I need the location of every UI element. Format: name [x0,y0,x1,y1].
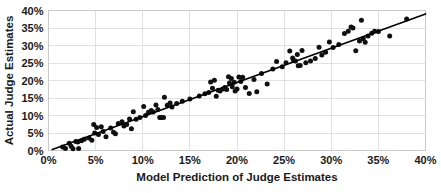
x-axis-title: Model Prediction of Judge Estimates [136,171,337,183]
data-point [129,126,134,131]
x-tick-label: 15% [179,154,201,166]
data-point [254,89,259,94]
data-point [327,40,332,45]
data-point [224,87,229,92]
data-point [387,34,392,39]
y-tick-label: 15% [21,92,43,104]
data-point [313,56,318,61]
data-point [141,104,146,109]
y-tick-label: 10% [21,110,43,122]
data-point [346,29,351,34]
chart-canvas: 0%5%10%15%20%25%30%35%40% 0%5%10%15%20%2… [0,0,441,193]
y-tick-label: 35% [21,22,43,34]
data-point [274,59,279,64]
data-point [89,138,94,143]
x-tick-label: 40% [414,154,436,166]
data-point [298,63,303,68]
data-point [287,49,292,54]
y-tick-label: 20% [21,75,43,87]
data-point [265,82,270,87]
x-tick-label: 20% [226,154,248,166]
data-point [359,18,364,23]
data-point [300,48,305,53]
data-point [103,134,108,139]
y-tick-label: 30% [21,40,43,52]
data-point [162,95,167,100]
x-tick-label: 35% [367,154,389,166]
y-axis-tick-labels: 0%5%10%15%20%25%30%35%40% [21,5,43,157]
data-point [350,26,355,31]
data-point [214,94,219,99]
data-point [63,146,68,151]
data-point [71,146,76,151]
trend-line [52,14,425,149]
data-point [212,78,217,83]
y-tick-label: 40% [21,5,43,17]
data-point [235,86,240,91]
x-tick-label: 25% [273,154,295,166]
data-point [131,109,136,114]
data-point [363,40,368,45]
y-tick-label: 25% [21,57,43,69]
data-point [76,146,81,151]
x-axis-tick-labels: 0%5%10%15%20%25%30%35%40% [41,154,437,166]
data-point [295,52,300,57]
y-tick-label: 5% [28,127,44,139]
data-point [94,125,99,130]
data-point [153,103,158,108]
data-point [308,58,313,63]
x-tick-label: 30% [320,154,342,166]
x-tick-label: 10% [132,154,154,166]
scatter-chart: 0%5%10%15%20%25%30%35%40% 0%5%10%15%20%2… [0,0,441,193]
data-point [303,60,308,65]
data-point [353,48,358,53]
data-point [161,115,166,120]
y-axis-title: Actual Judge Estimates [3,16,15,146]
data-point [113,131,118,136]
y-tick-label: 0% [28,145,44,157]
data-point [99,124,104,129]
data-point [317,45,322,50]
data-point [243,85,248,90]
x-tick-label: 5% [88,154,104,166]
data-point [247,91,252,96]
